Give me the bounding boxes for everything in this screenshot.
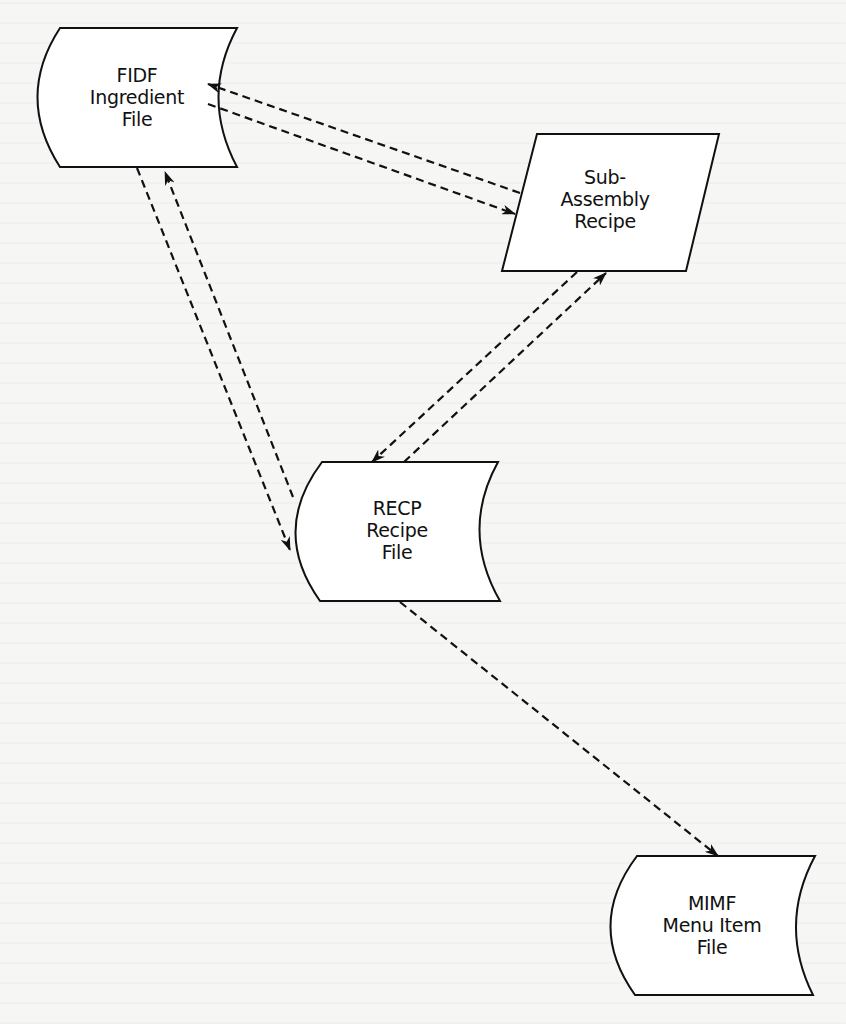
subassembly-label-line-3: Recipe — [530, 210, 680, 232]
fidf-label-line-3: File — [62, 108, 212, 130]
fidf-node-label: FIDF Ingredient File — [62, 64, 212, 130]
recp-node-label: RECP Recipe File — [322, 497, 472, 563]
fidf-label-line-2: Ingredient — [62, 86, 212, 108]
subassembly-label-line-2: Assembly — [530, 188, 680, 210]
subassembly-node-label: Sub- Assembly Recipe — [530, 166, 680, 232]
subassembly-label-line-1: Sub- — [530, 166, 680, 188]
edge-recp-to-fidf — [165, 172, 293, 497]
recp-label-line-2: Recipe — [322, 519, 472, 541]
edge-recp-to-subassembly — [404, 273, 606, 462]
edge-subassembly-to-fidf — [208, 84, 520, 193]
recp-label-line-1: RECP — [322, 497, 472, 519]
edge-fidf-to-recp — [137, 168, 290, 550]
mimf-node-label: MIMF Menu Item File — [637, 892, 787, 958]
mimf-label-line-1: MIMF — [637, 892, 787, 914]
mimf-label-line-2: Menu Item — [637, 914, 787, 936]
edge-recp-to-mimf — [400, 602, 718, 856]
fidf-label-line-1: FIDF — [62, 64, 212, 86]
recp-label-line-3: File — [322, 541, 472, 563]
edge-fidf-to-subassembly — [208, 104, 515, 214]
mimf-label-line-3: File — [637, 936, 787, 958]
edge-subassembly-to-recp — [372, 272, 577, 462]
